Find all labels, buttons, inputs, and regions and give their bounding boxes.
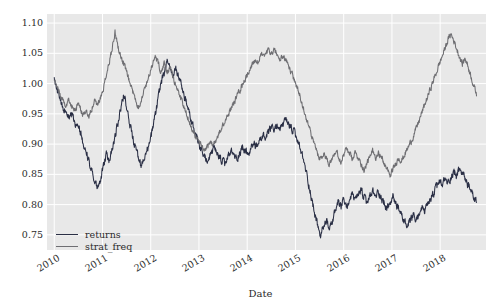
y-tick-label: 1.10 — [3, 18, 43, 28]
x-tick-label: 2018 — [414, 252, 447, 278]
y-tick-label: 1.00 — [3, 79, 43, 89]
x-tick-label: 2017 — [366, 252, 399, 278]
legend-color-swatch — [56, 246, 78, 247]
x-tick-label: 2011 — [77, 252, 110, 278]
y-tick-label: 0.95 — [3, 109, 43, 119]
y-tick-label: 1.05 — [3, 48, 43, 58]
x-tick-label: 2016 — [318, 252, 351, 278]
series-line-returns — [54, 59, 476, 238]
chart-figure: 0.750.800.850.900.951.001.051.10 2010201… — [0, 0, 497, 308]
legend-label: strat_freq — [85, 241, 132, 252]
y-axis-tick-labels: 0.750.800.850.900.951.001.051.10 — [0, 14, 43, 250]
x-axis-tick-labels: 201020112012201320142015201620172018 — [47, 250, 486, 290]
x-axis-label-text: Date — [249, 288, 273, 299]
legend-label: returns — [85, 229, 121, 240]
x-tick-label: 2010 — [29, 252, 62, 278]
y-tick-label: 0.80 — [3, 200, 43, 210]
y-tick-label: 0.75 — [3, 230, 43, 240]
plot-canvas — [47, 14, 486, 250]
plot-area — [47, 14, 486, 250]
y-tick-label: 0.85 — [3, 169, 43, 179]
x-tick-label: 2013 — [173, 252, 206, 278]
y-tick-label: 0.90 — [3, 139, 43, 149]
series-line-strat_freq — [54, 30, 476, 177]
x-tick-label: 2012 — [125, 252, 158, 278]
x-tick-label: 2014 — [221, 252, 254, 278]
legend-color-swatch — [56, 234, 78, 235]
chart-legend: returnsstrat_freq — [52, 225, 137, 255]
legend-item-strat_freq: strat_freq — [56, 240, 132, 252]
x-axis-label: Date — [0, 288, 497, 299]
legend-item-returns: returns — [56, 228, 132, 240]
x-tick-label: 2015 — [270, 252, 303, 278]
